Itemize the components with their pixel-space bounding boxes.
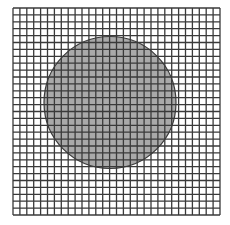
grid-circle-diagram bbox=[0, 0, 230, 225]
